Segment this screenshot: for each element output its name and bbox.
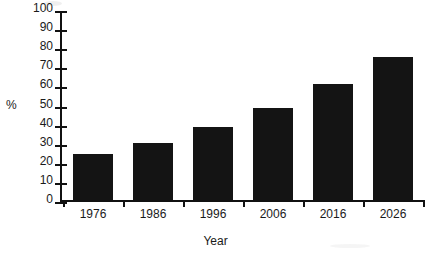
- x-axis-label-2016: 2016: [303, 208, 363, 221]
- y-tick-mark: [55, 183, 67, 185]
- y-tick-mark: [55, 202, 67, 204]
- bar-2026: [373, 57, 413, 200]
- y-tick-label: 40: [13, 117, 53, 129]
- x-axis-label-2006: 2006: [243, 208, 303, 221]
- x-tick-1986: [123, 200, 125, 207]
- x-tick-1976: [63, 200, 65, 207]
- x-axis-label-1986: 1986: [123, 208, 183, 221]
- y-tick-mark: [55, 87, 67, 89]
- x-tick-end: [423, 200, 425, 207]
- y-tick-label: 80: [13, 40, 53, 52]
- y-tick-mark: [55, 11, 67, 13]
- bar-1976: [73, 154, 113, 200]
- y-tick-label: 0: [13, 193, 53, 205]
- y-tick-mark: [55, 49, 67, 51]
- bar-chart: % 0102030405060708090100 197619861996200…: [0, 0, 431, 260]
- y-tick-mark: [55, 107, 67, 109]
- y-tick-mark: [55, 68, 67, 70]
- x-axis-label-1996: 1996: [183, 208, 243, 221]
- y-tick-label: 20: [13, 155, 53, 167]
- plot-area: 0102030405060708090100: [60, 11, 425, 202]
- y-tick-mark: [55, 30, 67, 32]
- y-tick-mark: [55, 164, 67, 166]
- bar-1986: [133, 143, 173, 200]
- x-tick-2006: [243, 200, 245, 207]
- y-tick-label: 10: [13, 174, 53, 186]
- y-tick-label: 60: [13, 78, 53, 90]
- y-tick-label: 50: [13, 98, 53, 110]
- y-tick-label: 30: [13, 136, 53, 148]
- y-tick-mark: [55, 145, 67, 147]
- x-tick-2016: [303, 200, 305, 207]
- x-axis-label-1976: 1976: [63, 208, 123, 221]
- bar-2006: [253, 108, 293, 200]
- bar-2016: [313, 84, 353, 201]
- x-axis-title: Year: [0, 234, 431, 248]
- y-tick-label: 100: [13, 2, 53, 14]
- bar-1996: [193, 127, 233, 200]
- y-tick-mark: [55, 126, 67, 128]
- y-tick-label: 90: [13, 21, 53, 33]
- y-tick-label: 70: [13, 59, 53, 71]
- x-axis-label-2026: 2026: [363, 208, 423, 221]
- x-tick-1996: [183, 200, 185, 207]
- x-tick-2026: [363, 200, 365, 207]
